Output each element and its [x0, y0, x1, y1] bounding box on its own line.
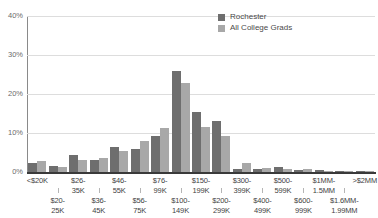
x-axis-tickmark: [344, 188, 345, 193]
bar-group: [191, 16, 211, 172]
x-axis-label-line: 45K: [77, 206, 120, 216]
x-axis-label-line: $500-: [261, 176, 304, 186]
bar: [212, 121, 221, 172]
x-axis-label-line: 199K: [180, 186, 223, 196]
legend-swatch-icon: [218, 25, 225, 32]
bar: [242, 163, 251, 172]
bar: [172, 71, 181, 172]
legend-label: Rochester: [230, 13, 266, 21]
x-axis-label-line: 599K: [261, 186, 304, 196]
x-axis-label-line: 25K: [36, 206, 79, 216]
bar-group: [68, 16, 88, 172]
y-axis-tick-label: 40%: [0, 12, 23, 20]
x-axis-tick-label: $500-599K: [261, 176, 304, 195]
x-axis-tick-label: >$2MM: [343, 176, 378, 186]
x-axis-line: [27, 172, 376, 174]
bar-group: [170, 16, 190, 172]
bar-group: [293, 16, 313, 172]
y-axis-tick-label: 0%: [0, 168, 23, 176]
bar-group: [129, 16, 149, 172]
x-axis-tick-label: $150-199K: [180, 176, 223, 195]
x-axis-tick-label: $26-35K: [57, 176, 100, 195]
bar: [151, 136, 160, 172]
x-axis-tick-label: $46-55K: [98, 176, 141, 195]
x-axis-label-line: 99K: [139, 186, 182, 196]
x-axis-tick-label: $600-999K: [282, 196, 325, 215]
x-axis-label-line: 75K: [118, 206, 161, 216]
x-axis-label-line: $1.6MM-: [323, 196, 366, 206]
x-axis-tick-label: $200-299K: [200, 196, 243, 215]
x-axis-label-line: 1.99MM: [323, 206, 366, 216]
x-axis-tick-label: $36-45K: [77, 196, 120, 215]
x-axis-labels: <$20K$20-25K$26-35K$36-45K$46-55K$56-75K…: [27, 176, 376, 218]
bar: [37, 161, 46, 172]
x-axis-label-line: $20-: [36, 196, 79, 206]
x-axis-label-line: $400-: [241, 196, 284, 206]
x-axis-tick-label: $1.6MM-1.99MM: [323, 196, 366, 215]
x-axis-label-line: 299K: [200, 206, 243, 216]
bar-group: [232, 16, 252, 172]
legend-swatch-icon: [218, 14, 225, 21]
bar: [119, 151, 128, 172]
y-axis-tick-label: 10%: [0, 129, 23, 137]
bar-group: [334, 16, 354, 172]
x-axis-label-line: $300-: [220, 176, 263, 186]
bar: [192, 112, 201, 172]
x-axis-label-line: 1.5MM: [302, 186, 345, 196]
x-axis-label-line: $76-: [139, 176, 182, 186]
bar: [160, 128, 169, 172]
bar: [221, 136, 230, 172]
bar-group: [314, 16, 334, 172]
legend-label: All College Grads: [230, 24, 292, 32]
y-axis-tick-label: 20%: [0, 90, 23, 98]
bar-group: [88, 16, 108, 172]
y-axis-labels: 40%30%20%10%0%: [0, 16, 24, 172]
x-axis-tick-label: $400-499K: [241, 196, 284, 215]
bar: [90, 160, 99, 172]
x-axis-label-line: $26-: [57, 176, 100, 186]
legend-item-rochester: Rochester: [218, 13, 292, 21]
bar-group: [27, 16, 47, 172]
x-axis-label-line: >$2MM: [343, 176, 378, 186]
x-axis-label-line: $150-: [180, 176, 223, 186]
bar-group: [211, 16, 231, 172]
bar-group: [273, 16, 293, 172]
x-axis-label-line: $600-: [282, 196, 325, 206]
x-axis-label-line: $200-: [200, 196, 243, 206]
bar: [99, 158, 108, 172]
x-axis-label-line: 35K: [57, 186, 100, 196]
x-axis-tick-label: <$20K: [16, 176, 59, 186]
x-axis-label-line: 999K: [282, 206, 325, 216]
x-axis-label-line: 399K: [220, 186, 263, 196]
bar: [181, 83, 190, 172]
legend-item-all-college-grads: All College Grads: [218, 24, 292, 32]
x-axis-tick-label: $1MM-1.5MM: [302, 176, 345, 195]
bar-group: [47, 16, 67, 172]
bar: [69, 155, 78, 172]
bar: [28, 163, 37, 172]
x-axis-label-line: 499K: [241, 206, 284, 216]
bar-group: [252, 16, 272, 172]
x-axis-tick-label: $56-75K: [118, 196, 161, 215]
bar: [201, 127, 210, 172]
x-axis-tick-label: $300-399K: [220, 176, 263, 195]
x-axis-label-line: 55K: [98, 186, 141, 196]
income-distribution-chart: 40%30%20%10%0% <$20K$20-25K$26-35K$36-45…: [0, 0, 378, 218]
bar: [110, 147, 119, 172]
x-axis-label-line: $36-: [77, 196, 120, 206]
x-axis-label-line: $100-: [159, 196, 202, 206]
x-axis-label-line: $1MM-: [302, 176, 345, 186]
x-axis-label-line: <$20K: [16, 176, 59, 186]
bar: [78, 160, 87, 172]
chart-legend: Rochester All College Grads: [218, 13, 292, 35]
x-axis-tick-label: $20-25K: [36, 196, 79, 215]
x-axis-label-line: 149K: [159, 206, 202, 216]
bar-group: [109, 16, 129, 172]
bar: [140, 141, 149, 172]
x-axis-label-line: $46-: [98, 176, 141, 186]
plot-area: [27, 16, 375, 172]
x-axis-tick-label: $100-149K: [159, 196, 202, 215]
y-axis-tick-label: 30%: [0, 51, 23, 59]
bar-group: [355, 16, 375, 172]
bar-group: [150, 16, 170, 172]
